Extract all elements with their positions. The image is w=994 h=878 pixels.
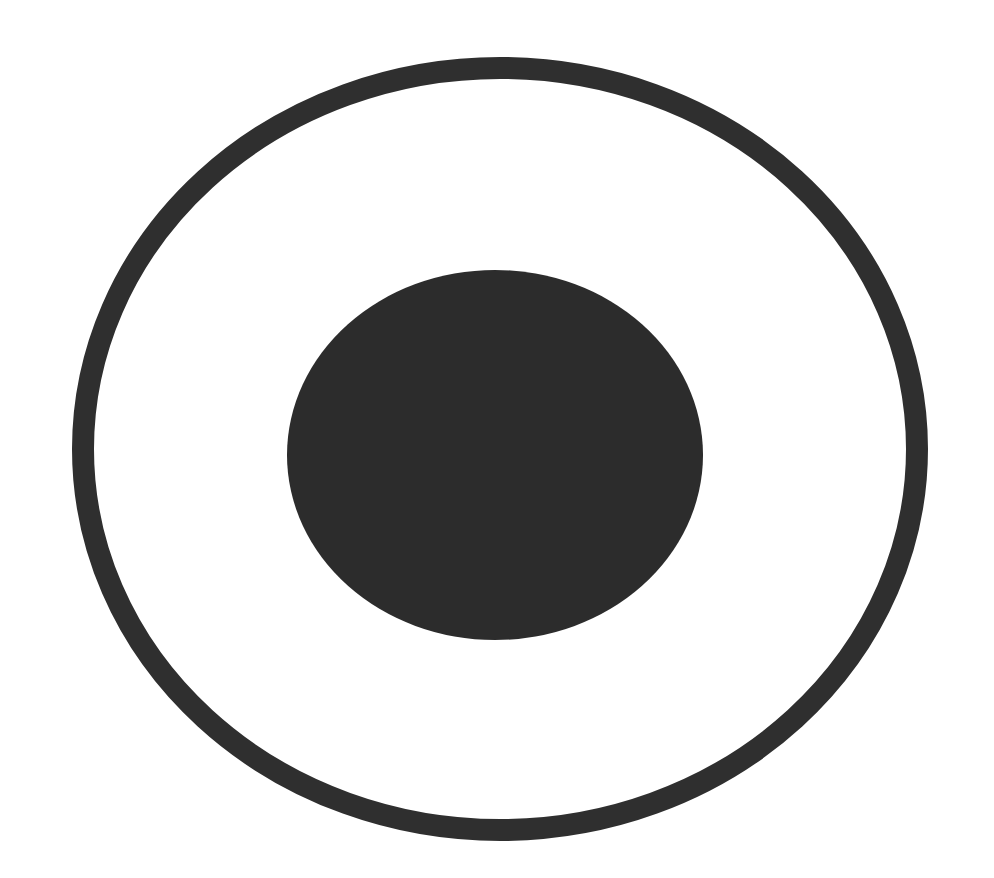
inner-disc: [287, 270, 703, 640]
figure-canvas: [0, 0, 994, 878]
